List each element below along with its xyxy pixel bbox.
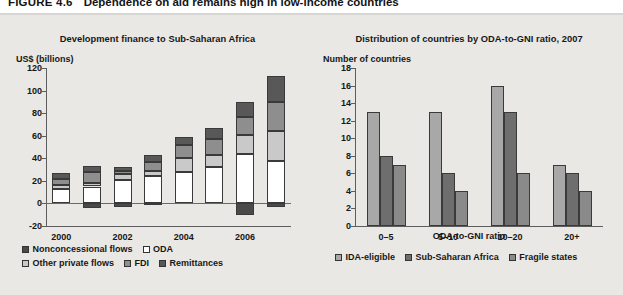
grouped-bar[interactable] [491,86,504,226]
legend-item[interactable]: IDA-eligible [335,252,395,263]
header-divider [0,13,623,15]
right-chart-legend: IDA-eligibleSub-Saharan AfricaFragile st… [335,252,623,263]
stacked-bar[interactable] [267,68,285,226]
bar-segment [52,189,70,204]
grouped-bar[interactable] [504,112,517,226]
right-chart-x-axis [355,226,603,227]
legend-item-label: Remittances [170,258,224,269]
y-tick-mark [351,138,355,139]
bar-segment-negative [144,203,162,205]
grouped-bar[interactable] [367,112,380,226]
y-tick-label: 2 [325,203,351,213]
bar-segment [267,131,285,160]
bar-segment [267,76,285,102]
grouped-bar[interactable] [566,173,579,226]
legend-row: IDA-eligibleSub-Saharan AfricaFragile st… [335,252,623,263]
stacked-bar[interactable] [236,68,254,226]
bar-segment-negative [267,203,285,206]
grouped-bar[interactable] [442,173,455,226]
stacked-bar[interactable] [144,68,162,226]
bar-segment [205,128,223,139]
legend-item-label: FDI [135,258,150,269]
legend-row: Nonconcessional flowsODA [22,244,233,255]
y-tick-label: 100 [16,86,42,96]
stacked-bar[interactable] [175,68,193,226]
y-tick-label: 60 [16,131,42,141]
bar-segment-negative [236,203,254,214]
legend-item[interactable]: Sub-Saharan Africa [405,252,499,263]
bar-segment [83,183,101,186]
y-tick-mark [42,68,46,69]
legend-item[interactable]: ODA [143,244,174,255]
y-tick-mark [351,156,355,157]
grouped-bar[interactable] [455,191,468,226]
y-tick-label: 10 [325,133,351,143]
bar-segment [83,187,101,204]
bar-segment [205,155,223,167]
bar-segment [83,172,101,183]
y-tick-label: 8 [325,151,351,161]
y-tick-label: 80 [16,108,42,118]
y-tick-mark [351,68,355,69]
y-tick-mark [42,136,46,137]
stacked-bar[interactable] [83,68,101,226]
bar-segment [144,162,162,171]
bar-segment [205,167,223,203]
stacked-bar[interactable] [114,68,132,226]
legend-item-label: IDA-eligible [346,252,396,263]
x-tick-label: 2006 [235,232,255,242]
bar-segment [267,102,285,131]
left-chart-y-axis [46,68,47,226]
y-tick-label: 14 [325,98,351,108]
stacked-bar[interactable] [52,68,70,226]
right-chart-title: Distribution of countries by ODA-to-GNI … [315,34,623,44]
legend-item-label: Fragile states [519,252,577,263]
figure-caption: Dependence on aid remains high in low-in… [84,0,399,8]
bar-segment [114,180,132,204]
grouped-bar[interactable] [380,156,393,226]
grouped-bar[interactable] [393,165,406,226]
chart-panel-development-finance: Development finance to Sub-Saharan Afric… [0,20,315,292]
bar-segment [175,172,193,204]
y-tick-label: 40 [16,153,42,163]
bar-segment [236,135,254,154]
y-tick-mark [351,121,355,122]
y-tick-label: 120 [16,63,42,73]
figure-number: FIGURE 4.6 [8,0,73,8]
bar-segment [236,102,254,117]
stacked-bar[interactable] [205,68,223,226]
y-tick-label: -20 [16,221,42,231]
y-tick-mark [351,191,355,192]
bar-segment [114,167,132,170]
y-tick-mark [351,86,355,87]
y-tick-label: 0 [325,221,351,231]
bar-segment [144,176,162,203]
grouped-bar[interactable] [517,173,530,226]
y-tick-label: 0 [16,198,42,208]
legend-row: Other private flowsFDIRemittances [22,258,233,269]
y-tick-label: 4 [325,186,351,196]
grouped-bar[interactable] [553,165,566,226]
figure-header-bar: FIGURE 4.6Dependence on aid remains high… [0,0,623,13]
right-chart-x-axis-label: ODA-to-GNI ratio [315,231,623,241]
legend-item[interactable]: Other private flows [22,258,114,269]
legend-item[interactable]: Nonconcessional flows [22,244,133,255]
y-tick-mark [42,158,46,159]
bar-segment [52,179,70,186]
legend-item[interactable]: FDI [124,258,149,269]
bar-segment [144,171,162,177]
y-tick-mark [351,173,355,174]
legend-swatch-icon [335,254,342,261]
bar-segment [205,139,223,155]
y-tick-label: 20 [16,176,42,186]
legend-swatch-icon [22,260,29,267]
legend-item[interactable]: Remittances [159,258,223,269]
legend-item[interactable]: Fragile states [509,252,578,263]
y-tick-mark [42,181,46,182]
bar-segment-negative [83,203,101,208]
grouped-bar[interactable] [579,191,592,226]
grouped-bar[interactable] [429,112,442,226]
left-chart-x-axis [46,226,291,227]
bar-segment [267,161,285,204]
legend-item-label: ODA [153,244,173,255]
